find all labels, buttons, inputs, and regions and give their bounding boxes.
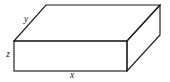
depth-label-y: y xyxy=(23,14,29,24)
box-diagram-figure: y z x xyxy=(0,0,170,82)
front-face-fill xyxy=(14,41,127,71)
box-diagram-svg: y z x xyxy=(0,0,170,82)
width-label-x: x xyxy=(69,70,75,80)
height-label-z: z xyxy=(5,49,10,59)
